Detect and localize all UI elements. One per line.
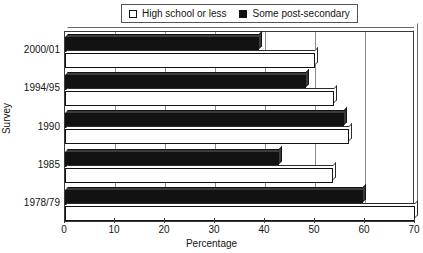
x-tick-label-70: 70 bbox=[408, 224, 419, 235]
bar-chart: High school or less Some post-secondary … bbox=[0, 0, 423, 253]
bar-top-face bbox=[65, 187, 366, 190]
bar-top-face bbox=[65, 110, 347, 113]
bar-end-face bbox=[306, 69, 309, 87]
bar-top-face bbox=[65, 34, 262, 37]
bar-end-face bbox=[415, 200, 418, 218]
x-tick-label-0: 0 bbox=[61, 224, 67, 235]
x-tick-mark-30 bbox=[214, 218, 215, 223]
bar-end-face bbox=[279, 146, 282, 164]
bar-end-face bbox=[344, 107, 347, 125]
legend-entry-high-school: High school or less bbox=[129, 8, 226, 19]
legend-label-post-secondary: Some post-secondary bbox=[252, 8, 349, 19]
x-tick-label-30: 30 bbox=[208, 224, 219, 235]
x-tick-label-20: 20 bbox=[158, 224, 169, 235]
bar-face bbox=[65, 206, 415, 221]
bar-group bbox=[65, 108, 413, 146]
bar-top-face bbox=[65, 88, 337, 91]
y-axis-title: Survey bbox=[1, 89, 12, 149]
bar-top-face bbox=[65, 72, 309, 75]
bar-end-face bbox=[315, 47, 318, 65]
bar-top-face bbox=[65, 126, 352, 129]
bar-face bbox=[65, 91, 334, 106]
bar-group bbox=[65, 32, 413, 70]
bar-white bbox=[65, 53, 315, 68]
bar-face bbox=[65, 168, 333, 183]
x-tick-mark-20 bbox=[164, 218, 165, 223]
y-tick-label-2000-01: 2000/01 bbox=[2, 44, 60, 55]
x-axis-title: Percentage bbox=[0, 238, 423, 249]
bar-group bbox=[65, 70, 413, 108]
bar-end-face bbox=[349, 123, 352, 141]
bar-top-face bbox=[65, 203, 418, 206]
bar-end-face bbox=[259, 31, 262, 49]
bar-top-face bbox=[65, 50, 318, 53]
bar-face bbox=[65, 129, 349, 144]
bar-top-face bbox=[65, 149, 282, 152]
bar-end-face bbox=[363, 184, 366, 202]
x-tick-mark-10 bbox=[114, 218, 115, 223]
bar-end-face bbox=[334, 85, 337, 103]
legend-entry-post-secondary: Some post-secondary bbox=[239, 8, 349, 19]
bar-group bbox=[65, 147, 413, 185]
bar-white bbox=[65, 91, 334, 106]
x-tick-mark-40 bbox=[264, 218, 265, 223]
bar-white bbox=[65, 129, 349, 144]
bar-white bbox=[65, 206, 415, 221]
x-tick-label-10: 10 bbox=[108, 224, 119, 235]
x-tick-mark-70 bbox=[414, 218, 415, 223]
x-tick-label-50: 50 bbox=[308, 224, 319, 235]
bar-end-face bbox=[333, 162, 336, 180]
x-axis-tick-labels: 010203040506070 bbox=[0, 224, 423, 238]
legend-swatch-black-icon bbox=[239, 10, 247, 18]
bar-group bbox=[65, 185, 413, 223]
y-tick-label-1978-79: 1978/79 bbox=[2, 197, 60, 208]
x-tick-mark-0 bbox=[64, 218, 65, 223]
x-tick-mark-50 bbox=[314, 218, 315, 223]
x-tick-label-60: 60 bbox=[358, 224, 369, 235]
chart-legend: High school or less Some post-secondary bbox=[121, 4, 358, 23]
bar-face bbox=[65, 53, 315, 68]
y-tick-label-1985: 1985 bbox=[2, 159, 60, 170]
bar-white bbox=[65, 168, 333, 183]
plot-area bbox=[64, 31, 414, 222]
x-tick-mark-60 bbox=[364, 218, 365, 223]
bar-top-face bbox=[65, 165, 336, 168]
legend-swatch-white-icon bbox=[129, 10, 137, 18]
plot-box-right-face bbox=[414, 23, 418, 218]
x-tick-label-40: 40 bbox=[258, 224, 269, 235]
legend-label-high-school: High school or less bbox=[142, 8, 226, 19]
